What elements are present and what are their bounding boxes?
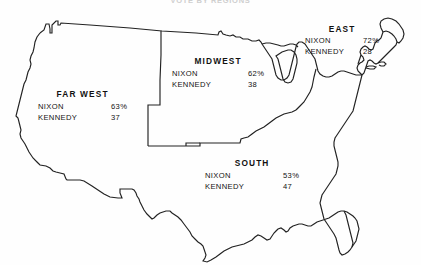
result-row: NIXON 53% xyxy=(205,171,299,182)
candidate-value: 72% xyxy=(363,36,379,47)
candidate-name: KENNEDY xyxy=(38,113,111,124)
cape-cod-path xyxy=(378,62,386,66)
candidate-name: KENNEDY xyxy=(305,47,363,58)
pacific-coast-path xyxy=(16,33,40,161)
result-row: KENNEDY 38 xyxy=(172,80,264,91)
result-row: KENNEDY 28 xyxy=(305,47,379,58)
long-island-path xyxy=(366,66,376,69)
florida-path xyxy=(344,211,353,247)
candidate-name: NIXON xyxy=(305,36,363,47)
candidate-name: NIXON xyxy=(205,171,283,182)
region-title-south: SOUTH xyxy=(205,158,299,168)
candidate-value: 53% xyxy=(283,171,299,182)
mexico-border-path xyxy=(36,161,205,252)
northern-border-path xyxy=(40,21,262,44)
region-title-far-west: FAR WEST xyxy=(38,89,127,99)
divider-farwest-midwest xyxy=(148,31,161,146)
candidate-name: NIXON xyxy=(38,102,111,113)
result-row: NIXON 63% xyxy=(38,102,127,113)
region-south: SOUTH NIXON 53% KENNEDY 47 xyxy=(205,158,299,192)
divider-midwest-south xyxy=(148,110,296,146)
region-east: EAST NIXON 72% KENNEDY 28 xyxy=(305,24,379,57)
upper-peninsula-path xyxy=(262,43,298,47)
candidate-value: 38 xyxy=(248,80,257,91)
result-row: KENNEDY 37 xyxy=(38,113,127,124)
region-midwest: MIDWEST NIXON 62% KENNEDY 38 xyxy=(172,56,264,90)
result-row: KENNEDY 47 xyxy=(205,182,299,193)
result-row: NIXON 72% xyxy=(305,36,379,47)
regional-vote-map: VOTE BY REGIONS FA xyxy=(0,0,421,265)
result-row: NIXON 62% xyxy=(172,69,264,80)
candidate-value: 47 xyxy=(283,182,292,193)
candidate-value: 37 xyxy=(111,113,120,124)
new-england-path xyxy=(380,18,404,43)
divider-midwest-east xyxy=(296,69,316,110)
candidate-value: 63% xyxy=(111,102,127,113)
candidate-name: KENNEDY xyxy=(205,182,283,193)
region-title-east: EAST xyxy=(305,24,379,34)
region-title-midwest: MIDWEST xyxy=(172,56,264,66)
candidate-name: NIXON xyxy=(172,69,248,80)
candidate-value: 62% xyxy=(248,69,264,80)
candidate-value: 28 xyxy=(363,47,372,58)
region-far-west: FAR WEST NIXON 63% KENNEDY 37 xyxy=(38,89,127,123)
candidate-name: KENNEDY xyxy=(172,80,248,91)
